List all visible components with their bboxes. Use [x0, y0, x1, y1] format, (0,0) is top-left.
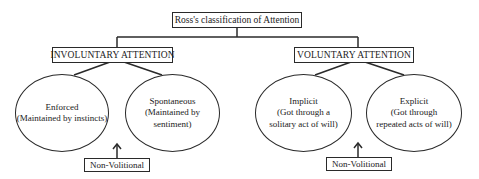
title-label: Ross's classification of Attention	[175, 15, 299, 25]
implicit-desc-2: solitary act of will)	[269, 119, 338, 131]
spontaneous-desc-1: (Maintained by	[145, 107, 200, 119]
enforced-title: Enforced	[46, 102, 79, 114]
title-box: Ross's classification of Attention	[172, 12, 302, 28]
voluntary-attention-label: VOLUNTARY ATTENTION	[297, 50, 411, 60]
spontaneous-title: Spontaneous	[150, 96, 196, 108]
explicit-desc-1: (Got through	[391, 107, 438, 119]
voluntary-attention-box: VOLUNTARY ATTENTION	[294, 47, 414, 63]
implicit-title: Implicit	[289, 96, 318, 108]
non-volitional-label-right: Non-Volitional	[332, 159, 386, 169]
explicit-ellipse: Explicit (Got through repeated acts of w…	[366, 74, 462, 152]
spontaneous-ellipse: Spontaneous (Maintained by sentiment)	[125, 74, 220, 152]
explicit-title: Explicit	[400, 96, 429, 108]
involuntary-attention-box: INVOLUNTARY ATTENTION	[52, 47, 173, 63]
non-volitional-label-left: Non-Volitional	[90, 160, 144, 170]
non-volitional-box-right: Non-Volitional	[326, 157, 392, 171]
enforced-ellipse: Enforced (Maintained by instincts)	[15, 74, 109, 152]
implicit-desc-1: (Got through a	[277, 107, 330, 119]
explicit-desc-2: repeated acts of will)	[376, 119, 452, 131]
involuntary-attention-label: INVOLUNTARY ATTENTION	[50, 50, 174, 60]
implicit-ellipse: Implicit (Got through a solitary act of …	[255, 74, 352, 152]
enforced-desc: (Maintained by instincts)	[17, 113, 107, 125]
spontaneous-desc-2: sentiment)	[154, 119, 192, 131]
non-volitional-box-left: Non-Volitional	[84, 158, 150, 172]
